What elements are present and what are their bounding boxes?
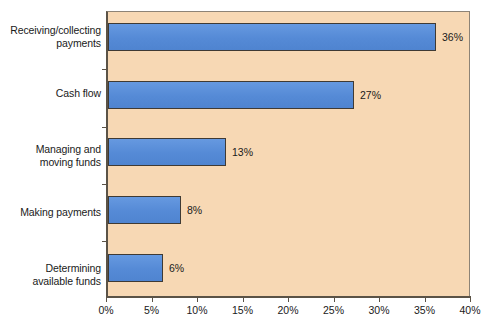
bar-value-determining-available-funds: 6% (169, 254, 184, 282)
x-axis-tick-label-35: 35% (414, 304, 435, 316)
bar-receiving-collecting-payments[interactable] (108, 23, 436, 51)
bar-value-making-payments: 8% (187, 196, 202, 224)
plot-inner: 36% 27% 13% 8% 6% (108, 12, 469, 296)
x-axis-tick-label-15: 15% (232, 304, 253, 316)
bar-value-managing-and-moving-funds: 13% (232, 138, 253, 166)
y-axis-tick-1 (102, 69, 108, 70)
x-axis-tick-5 (152, 296, 153, 302)
x-axis-tick-label-0: 0% (98, 304, 113, 316)
x-axis-tick-30 (379, 296, 380, 302)
y-axis-tick-2 (102, 127, 108, 128)
y-axis-tick-4 (102, 241, 108, 242)
x-axis-tick-label-25: 25% (323, 304, 344, 316)
x-axis-tick-25 (334, 296, 335, 302)
plot-area: 36% 27% 13% 8% 6% (106, 11, 470, 296)
x-axis-tick-15 (243, 296, 244, 302)
bar-value-receiving-collecting-payments: 36% (442, 23, 463, 51)
bar-managing-and-moving-funds[interactable] (108, 138, 226, 166)
x-axis-tick-label-10: 10% (186, 304, 207, 316)
y-axis-tick-3 (102, 184, 108, 185)
x-axis-tick-label-5: 5% (144, 304, 159, 316)
category-label-making-payments: Making payments (0, 206, 101, 219)
x-axis-tick-label-20: 20% (277, 304, 298, 316)
x-axis-tick-20 (288, 296, 289, 302)
category-label-receiving-collecting-payments: Receiving/collecting payments (0, 24, 101, 49)
bar-value-cash-flow: 27% (360, 81, 381, 109)
x-axis-tick-40 (470, 296, 471, 302)
bar-determining-available-funds[interactable] (108, 254, 163, 282)
x-axis: 0% 5% 10% 15% 20% 25% 30% 35% 40% (106, 296, 470, 322)
x-axis-tick-35 (425, 296, 426, 302)
x-axis-tick-10 (197, 296, 198, 302)
category-label-cash-flow: Cash flow (0, 87, 101, 100)
bar-making-payments[interactable] (108, 196, 181, 224)
horizontal-bar-chart: Receiving/collecting payments Cash flow … (0, 0, 485, 322)
x-axis-tick-label-30: 30% (368, 304, 389, 316)
y-axis-category-labels: Receiving/collecting payments Cash flow … (0, 0, 101, 296)
bar-cash-flow[interactable] (108, 81, 354, 109)
x-axis-tick-label-40: 40% (459, 304, 480, 316)
category-label-managing-and-moving-funds: Managing and moving funds (0, 143, 101, 168)
category-label-determining-available-funds: Determining available funds (0, 262, 101, 287)
x-axis-tick-0 (106, 296, 107, 302)
